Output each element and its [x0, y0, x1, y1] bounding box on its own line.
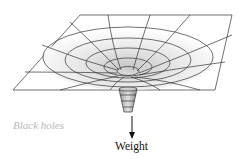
throat-cone: [119, 87, 137, 112]
spacetime-diagram: [0, 0, 237, 159]
caption-label: Black holes: [13, 119, 64, 131]
weight-arrow: [129, 116, 135, 139]
grid-sheet: [13, 15, 232, 90]
weight-label: Weight: [115, 140, 148, 152]
